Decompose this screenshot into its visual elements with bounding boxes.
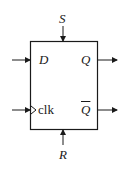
d-label: D: [39, 53, 48, 66]
set-label: S: [59, 12, 66, 25]
clk-label: clk: [38, 103, 54, 116]
q-label: Q: [81, 53, 90, 66]
reset-label: R: [59, 148, 67, 161]
q-bar-label: Q: [81, 103, 90, 116]
clock-triangle-icon: [31, 106, 36, 114]
